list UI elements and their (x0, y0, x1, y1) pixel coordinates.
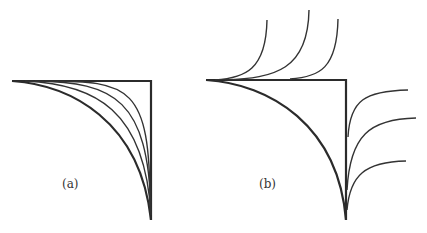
panel-b (206, 10, 416, 220)
panel-b-up-curve-1 (215, 20, 267, 80)
diagram-figure: (a) (b) (0, 0, 427, 233)
panel-b-right-curve-2 (347, 118, 416, 190)
panel-a-ellipse-curve (12, 81, 151, 220)
panel-b-ellipse-curve (206, 80, 346, 220)
panel-a-label: (a) (62, 178, 79, 190)
panel-b-right-curve-3 (347, 161, 406, 210)
panel-b-up-curve-3 (290, 19, 338, 79)
panel-b-right-curve-1 (348, 90, 408, 137)
panel-a (12, 81, 151, 220)
panel-a-curve-3 (35, 81, 151, 210)
diagram-canvas (0, 0, 427, 233)
panel-b-label: (b) (259, 178, 276, 190)
